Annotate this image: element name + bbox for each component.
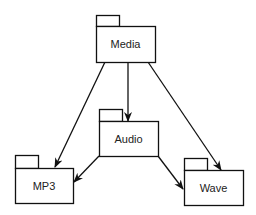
package-audio: Audio [100, 110, 159, 157]
package-wave: Wave [185, 159, 244, 206]
package-tab [16, 156, 39, 169]
arrow-audio-to-wave [158, 156, 183, 189]
arrow-media-to-mp3 [55, 62, 105, 167]
package-media: Media [97, 16, 156, 63]
package-tab [185, 159, 208, 171]
package-label: Media [111, 38, 142, 50]
package-mp3: MP3 [16, 156, 74, 204]
package-diagram: MediaAudioMP3Wave [0, 0, 256, 215]
package-label: MP3 [33, 180, 56, 192]
packages: MediaAudioMP3Wave [16, 16, 244, 206]
package-tab [100, 110, 123, 122]
package-label: Wave [200, 182, 228, 194]
package-label: Audio [114, 133, 142, 145]
package-tab [97, 16, 120, 27]
arrow-audio-to-mp3 [74, 156, 99, 182]
